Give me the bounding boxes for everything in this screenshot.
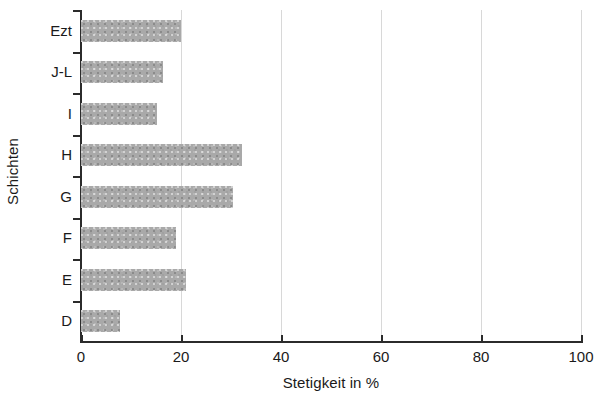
y-axis-tick-label: D	[8, 313, 72, 329]
bar	[81, 61, 163, 83]
y-axis-tick	[73, 10, 81, 12]
x-axis-tick	[381, 335, 383, 343]
x-axis-tick-label: 100	[551, 348, 598, 365]
bar	[81, 186, 233, 208]
x-axis-tick	[81, 335, 83, 343]
bar	[81, 310, 120, 332]
x-axis-tick-label: 40	[251, 348, 311, 365]
y-axis-tick	[73, 176, 81, 178]
x-axis-tick	[281, 335, 283, 343]
bar	[81, 20, 181, 42]
x-axis-tick	[181, 335, 183, 343]
x-axis-tick-label: 20	[151, 348, 211, 365]
y-axis-tick	[73, 218, 81, 220]
bar	[81, 103, 157, 125]
y-axis-title: Schichten	[0, 0, 24, 342]
y-axis-tick	[73, 135, 81, 137]
y-axis-tick	[73, 52, 81, 54]
y-axis-tick-label: H	[8, 147, 72, 163]
bar	[81, 144, 242, 166]
bar	[81, 227, 176, 249]
x-axis-tick-label: 80	[451, 348, 511, 365]
plot-area	[81, 10, 581, 342]
y-axis-tick-label: I	[8, 106, 72, 122]
gridline	[281, 10, 282, 342]
x-axis-tick-label: 60	[351, 348, 411, 365]
y-axis-tick-label: Ezt	[8, 23, 72, 39]
y-axis-tick-label: F	[8, 230, 72, 246]
y-axis-tick-label: G	[8, 189, 72, 205]
bar	[81, 269, 186, 291]
y-axis-tick	[73, 259, 81, 261]
x-axis-tick	[481, 335, 483, 343]
y-axis-tick-label: J-L	[8, 64, 72, 80]
y-axis-tick-label: E	[8, 272, 72, 288]
x-axis-tick	[581, 335, 583, 343]
x-axis-title: Stetigkeit in %	[81, 374, 581, 391]
y-axis-tick	[73, 93, 81, 95]
gridline	[381, 10, 382, 342]
gridline	[581, 10, 582, 342]
gridline	[481, 10, 482, 342]
x-axis-tick-label: 0	[51, 348, 111, 365]
gridline	[181, 10, 182, 342]
y-axis-tick	[73, 301, 81, 303]
